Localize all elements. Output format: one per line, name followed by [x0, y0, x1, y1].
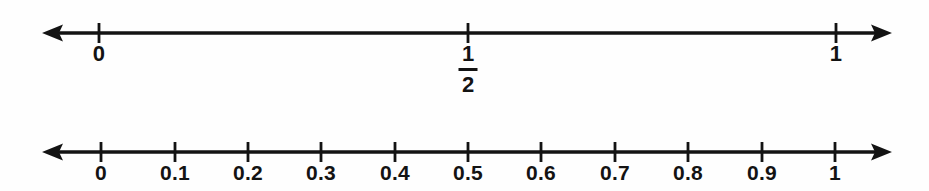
tick-label: 0	[95, 162, 107, 183]
tick-label: 0	[93, 43, 105, 65]
tick-label: 0.9	[747, 162, 777, 183]
number-line-figure: 0121 00.10.20.30.40.50.60.70.80.91	[0, 0, 929, 191]
fraction-denominator: 2	[462, 71, 474, 96]
tick-label: 0.4	[380, 162, 410, 183]
tick-label: 1	[830, 43, 842, 65]
tick-label-fraction: 12	[459, 43, 478, 96]
number-line-tenths: 00.10.20.30.40.50.60.70.80.91	[0, 110, 929, 191]
fraction-numerator: 1	[462, 43, 474, 68]
number-line-halves: 0121	[0, 0, 929, 110]
tick-label: 0.3	[306, 162, 336, 183]
tick-label: 0.2	[233, 162, 263, 183]
tick-label: 1	[829, 162, 841, 183]
tick-label: 0.7	[600, 162, 630, 183]
tick-label: 0.5	[453, 162, 483, 183]
tick-label: 0.8	[673, 162, 703, 183]
tick-label: 0.1	[160, 162, 190, 183]
tick-label: 0.6	[526, 162, 556, 183]
